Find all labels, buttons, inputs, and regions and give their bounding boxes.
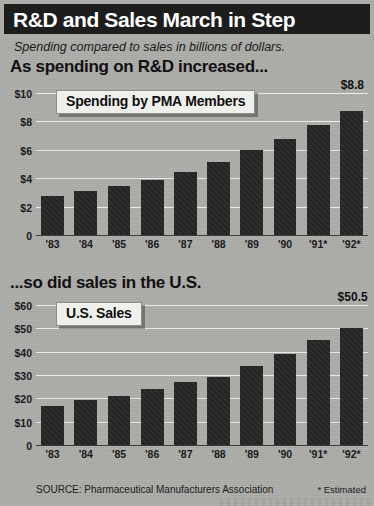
bar-column bbox=[36, 306, 69, 445]
x-axis-tick-label: '91* bbox=[302, 448, 335, 464]
y-axis-tick-label: $30 bbox=[14, 370, 32, 382]
x-axis-tick-label: '87 bbox=[169, 448, 202, 464]
source-note: SOURCE: Pharmaceutical Manufacturers Ass… bbox=[36, 484, 273, 495]
bar-column bbox=[102, 94, 135, 235]
page-title: R&D and Sales March in Step bbox=[4, 9, 295, 30]
bar bbox=[174, 382, 197, 445]
header-bar: R&D and Sales March in Step bbox=[4, 4, 370, 34]
bar bbox=[141, 389, 164, 445]
x-axis-tick-label: '84 bbox=[69, 238, 102, 254]
bar-column bbox=[302, 306, 335, 445]
bar bbox=[41, 406, 64, 445]
bar-column bbox=[36, 94, 69, 235]
section-title-bottom: ...so did sales in the U.S. bbox=[10, 273, 201, 293]
plot-area-top: 0$2$4$6$8$10 $8.8 bbox=[36, 94, 368, 236]
bar bbox=[41, 196, 64, 235]
y-axis-tick-label: $8 bbox=[20, 116, 32, 128]
x-axis-labels-bottom: '83'84'85'86'87'88'89'90'91*'92* bbox=[36, 448, 368, 464]
x-axis-tick-label: '83 bbox=[36, 448, 69, 464]
x-axis-tick-label: '89 bbox=[235, 448, 268, 464]
x-axis-labels-top: '83'84'85'86'87'88'89'90'91*'92* bbox=[36, 238, 368, 254]
bar-column bbox=[268, 94, 301, 235]
legend-callout-top: Spending by PMA Members bbox=[56, 90, 255, 114]
bar-column bbox=[69, 306, 102, 445]
y-axis-tick-label: $6 bbox=[20, 145, 32, 157]
bars-top: $8.8 bbox=[36, 94, 368, 235]
infographic-page: R&D and Sales March in Step Spending com… bbox=[0, 0, 374, 506]
x-axis-tick-label: '88 bbox=[202, 238, 235, 254]
x-axis-tick-label: '85 bbox=[102, 238, 135, 254]
y-axis-tick-label: $4 bbox=[20, 173, 32, 185]
y-axis-tick-label: $60 bbox=[14, 300, 32, 312]
y-axis-tick-label: $10 bbox=[14, 417, 32, 429]
x-axis-tick-label: '83 bbox=[36, 238, 69, 254]
bar bbox=[174, 172, 197, 235]
watermark-strip bbox=[220, 498, 370, 506]
x-axis-line-bottom bbox=[36, 445, 368, 447]
section-title-top: As spending on R&D increased... bbox=[10, 57, 268, 77]
x-axis-line-top bbox=[36, 235, 368, 237]
bar bbox=[307, 125, 330, 235]
bar bbox=[240, 366, 263, 445]
y-axis-tick-label: $20 bbox=[14, 393, 32, 405]
bar-column bbox=[69, 94, 102, 235]
bar bbox=[274, 354, 297, 446]
y-axis-tick-label: $50 bbox=[14, 323, 32, 335]
x-axis-tick-label: '91* bbox=[302, 238, 335, 254]
bar-column bbox=[202, 306, 235, 445]
bar bbox=[74, 191, 97, 235]
bar bbox=[108, 396, 131, 445]
x-axis-tick-label: '90 bbox=[268, 238, 301, 254]
y-axis-tick-label: $10 bbox=[14, 88, 32, 100]
x-axis-tick-label: '86 bbox=[136, 238, 169, 254]
bar: $50.5 bbox=[340, 328, 363, 445]
subtitle: Spending compared to sales in billions o… bbox=[14, 40, 285, 54]
x-axis-tick-label: '90 bbox=[268, 448, 301, 464]
bar-column bbox=[235, 94, 268, 235]
legend-callout-bottom: U.S. Sales bbox=[56, 302, 142, 326]
x-axis-tick-label: '85 bbox=[102, 448, 135, 464]
bar-column: $50.5 bbox=[335, 306, 368, 445]
plot-area-bottom: 0$10$20$30$40$50$60 $50.5 bbox=[36, 306, 368, 446]
footer: SOURCE: Pharmaceutical Manufacturers Ass… bbox=[0, 482, 374, 506]
x-axis-tick-label: '92* bbox=[335, 238, 368, 254]
x-axis-tick-label: '86 bbox=[136, 448, 169, 464]
estimated-note: * Estimated bbox=[317, 484, 366, 495]
bar bbox=[141, 180, 164, 235]
y-axis-tick-label: $2 bbox=[20, 202, 32, 214]
bar-value-label: $8.8 bbox=[341, 78, 364, 92]
bar bbox=[274, 139, 297, 235]
y-axis-tick-label: $40 bbox=[14, 347, 32, 359]
y-axis-tick-label: 0 bbox=[26, 230, 32, 242]
bar-column bbox=[136, 306, 169, 445]
bar-column bbox=[169, 94, 202, 235]
bar-column bbox=[202, 94, 235, 235]
bar-column bbox=[302, 94, 335, 235]
x-axis-tick-label: '88 bbox=[202, 448, 235, 464]
bar bbox=[307, 340, 330, 445]
bar-column bbox=[102, 306, 135, 445]
bar bbox=[108, 186, 131, 235]
y-axis-tick-label: 0 bbox=[26, 440, 32, 452]
x-axis-tick-label: '89 bbox=[235, 238, 268, 254]
bar: $8.8 bbox=[340, 111, 363, 235]
bar bbox=[74, 400, 97, 445]
bar bbox=[207, 162, 230, 235]
bar-column bbox=[235, 306, 268, 445]
bar bbox=[240, 150, 263, 235]
x-axis-tick-label: '84 bbox=[69, 448, 102, 464]
bars-bottom: $50.5 bbox=[36, 306, 368, 445]
x-axis-tick-label: '92* bbox=[335, 448, 368, 464]
bar bbox=[207, 377, 230, 445]
x-axis-tick-label: '87 bbox=[169, 238, 202, 254]
bar-column bbox=[268, 306, 301, 445]
bar-column bbox=[169, 306, 202, 445]
bar-column bbox=[136, 94, 169, 235]
bar-column: $8.8 bbox=[335, 94, 368, 235]
bar-value-label: $50.5 bbox=[338, 290, 368, 304]
